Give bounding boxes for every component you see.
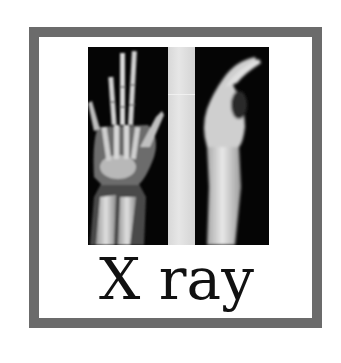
xray-lateral-view — [195, 47, 269, 245]
xray-frontal-view — [88, 47, 168, 245]
hand-frontal-icon — [88, 47, 168, 245]
hand-lateral-icon — [195, 47, 269, 245]
xray-image — [88, 47, 269, 245]
caption-text: X ray — [40, 246, 313, 312]
separator-strip — [168, 47, 195, 245]
